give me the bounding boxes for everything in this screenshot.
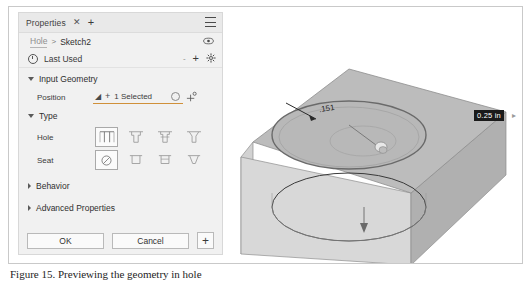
cancel-button[interactable]: Cancel bbox=[112, 233, 189, 249]
breadcrumb-separator: > bbox=[51, 37, 56, 46]
add-feature-button[interactable]: + bbox=[197, 232, 214, 249]
no-seat-icon[interactable] bbox=[95, 150, 118, 170]
seat-type-row: Seat bbox=[19, 150, 222, 170]
position-label: Position bbox=[37, 93, 93, 102]
axis-reference-icon[interactable] bbox=[186, 91, 197, 102]
chevron-down-icon bbox=[28, 77, 34, 81]
hamburger-menu-icon[interactable] bbox=[205, 17, 216, 27]
counterbore-seat-icon[interactable] bbox=[124, 150, 147, 170]
plus-icon[interactable]: + bbox=[193, 53, 199, 63]
properties-panel: Properties ✕ + Hole > Sketch2 Last Used bbox=[18, 12, 223, 255]
dimension-callout[interactable]: 0.25 in bbox=[474, 110, 504, 121]
section-behavior[interactable]: Behavior bbox=[19, 178, 222, 194]
position-input[interactable]: ◢ + 1 Selected bbox=[93, 90, 183, 104]
close-icon[interactable]: ✕ bbox=[73, 18, 81, 27]
section-behavior-label: Behavior bbox=[36, 181, 70, 191]
screenshot-frame: Properties ✕ + Hole > Sketch2 Last Used bbox=[8, 6, 523, 264]
clock-history-icon bbox=[28, 54, 38, 64]
gear-icon[interactable] bbox=[206, 53, 216, 63]
preset-label: Last Used bbox=[44, 54, 82, 64]
eye-icon[interactable] bbox=[203, 37, 214, 45]
section-type-label: Type bbox=[39, 111, 57, 121]
section-type[interactable]: Type bbox=[19, 108, 222, 124]
countersink-seat-icon[interactable] bbox=[182, 150, 205, 170]
section-advanced-properties[interactable]: Advanced Properties bbox=[19, 200, 222, 216]
countersink-hole-icon[interactable] bbox=[182, 127, 205, 147]
position-field-row: Position ◢ + 1 Selected bbox=[19, 89, 222, 105]
plus-icon[interactable]: + bbox=[88, 17, 94, 28]
breadcrumb-parent[interactable]: Hole bbox=[30, 36, 47, 48]
tab-properties[interactable]: Properties bbox=[26, 18, 66, 28]
panel-titlebar: Properties ✕ + bbox=[19, 13, 222, 33]
preset-actions: - + bbox=[183, 53, 216, 63]
breadcrumb-current[interactable]: Sketch2 bbox=[60, 37, 91, 47]
plus-icon: + bbox=[105, 92, 110, 100]
spotface-hole-icon[interactable] bbox=[153, 127, 176, 147]
simple-hole-icon[interactable] bbox=[95, 127, 118, 147]
ok-button[interactable]: OK bbox=[27, 233, 104, 249]
hole-type-row: Hole bbox=[19, 127, 222, 147]
chevron-right-icon bbox=[28, 183, 31, 189]
section-input-geometry[interactable]: Input Geometry bbox=[19, 71, 222, 87]
chevron-down-icon bbox=[28, 114, 34, 118]
counterbore-hole-icon[interactable] bbox=[124, 127, 147, 147]
dialog-button-bar: OK Cancel + bbox=[19, 232, 222, 249]
preset-dash: - bbox=[183, 54, 186, 63]
select-cursor-icon: ◢ bbox=[95, 92, 101, 101]
hole-label: Hole bbox=[37, 133, 95, 142]
chevron-right-icon bbox=[28, 205, 31, 211]
clear-selection-icon[interactable] bbox=[171, 92, 180, 101]
breadcrumb: Hole > Sketch2 bbox=[19, 33, 222, 50]
figure-caption: Figure 15. Previewing the geometry in ho… bbox=[10, 268, 202, 280]
spotface-seat-icon[interactable] bbox=[153, 150, 176, 170]
section-advanced-properties-label: Advanced Properties bbox=[36, 203, 115, 213]
section-input-geometry-label: Input Geometry bbox=[39, 74, 98, 84]
position-value: 1 Selected bbox=[114, 92, 152, 101]
seat-label: Seat bbox=[37, 156, 95, 165]
preset-row[interactable]: Last Used - + bbox=[19, 50, 222, 68]
chevron-right-icon[interactable]: ▸ bbox=[509, 111, 518, 120]
block-with-hole-3d-model bbox=[231, 7, 522, 263]
3d-viewport[interactable]: .151 0.25 in ▸ bbox=[231, 7, 522, 263]
